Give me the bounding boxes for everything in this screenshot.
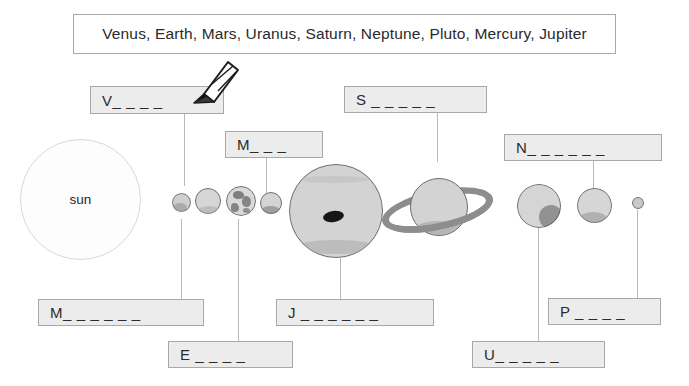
planet-mars <box>260 192 282 214</box>
planet-mars-body <box>260 192 282 214</box>
connector-line-uranus <box>538 228 539 341</box>
planet-pluto <box>632 197 644 209</box>
word-bank-text: Venus, Earth, Mars, Uranus, Saturn, Nept… <box>102 25 587 43</box>
answer-box-mercury-text: M_ _ _ _ _ _ <box>39 304 141 321</box>
planet-pluto-body <box>632 197 644 209</box>
answer-box-saturn[interactable]: S _ _ _ _ _ <box>344 86 487 113</box>
planet-earth-continent <box>243 208 250 213</box>
sun-illustration: sun <box>20 139 141 260</box>
planet-neptune-body <box>577 188 612 223</box>
answer-box-saturn-text: S _ _ _ _ _ <box>345 91 435 108</box>
planet-venus <box>195 188 221 214</box>
answer-box-uranus-text: U_ _ _ _ _ <box>473 346 559 363</box>
planet-labeling-worksheet: Venus, Earth, Mars, Uranus, Saturn, Nept… <box>0 0 689 386</box>
answer-box-mars[interactable]: M_ _ _ <box>225 131 323 158</box>
planet-earth-body <box>226 186 256 216</box>
connector-line-saturn <box>437 110 438 162</box>
answer-box-pluto-text: P _ _ _ _ <box>549 303 625 320</box>
connector-line-jupiter <box>340 258 341 300</box>
connector-line-mars <box>266 155 267 193</box>
planet-saturn <box>381 162 494 258</box>
answer-box-uranus[interactable]: U_ _ _ _ _ <box>472 341 605 368</box>
planet-venus-body <box>195 188 221 214</box>
connector-line-pluto <box>637 210 638 298</box>
answer-box-neptune[interactable]: N_ _ _ _ _ _ <box>504 134 662 161</box>
answer-box-earth-text: E _ _ _ _ <box>169 346 245 363</box>
connector-line-venus <box>184 108 185 186</box>
planet-neptune <box>577 188 612 223</box>
planet-earth <box>226 186 256 216</box>
answer-box-venus-text: V_ _ _ _ <box>91 92 163 109</box>
planet-uranus-body <box>517 184 561 228</box>
answer-box-mercury[interactable]: M_ _ _ _ _ _ <box>38 299 204 326</box>
connector-line-mercury <box>181 219 182 299</box>
answer-box-neptune-text: N_ _ _ _ _ _ <box>505 139 605 156</box>
connector-line-earth <box>238 219 239 342</box>
planet-earth-continent <box>242 196 251 207</box>
planet-mercury-body <box>172 193 191 212</box>
sun-label: sun <box>70 192 92 207</box>
word-bank: Venus, Earth, Mars, Uranus, Saturn, Nept… <box>73 14 616 54</box>
connector-line-neptune <box>593 158 594 188</box>
planet-jupiter <box>289 164 383 258</box>
planet-uranus <box>517 184 561 228</box>
answer-box-earth[interactable]: E _ _ _ _ <box>168 341 293 368</box>
answer-box-jupiter[interactable]: J _ _ _ _ _ _ <box>276 299 434 326</box>
pencil-icon <box>188 58 240 104</box>
planet-earth-continent <box>231 203 239 212</box>
planet-mercury <box>172 193 191 212</box>
answer-box-jupiter-text: J _ _ _ _ _ _ <box>277 304 378 321</box>
answer-box-mars-text: M_ _ _ <box>226 136 286 153</box>
answer-box-pluto[interactable]: P _ _ _ _ <box>548 298 661 325</box>
